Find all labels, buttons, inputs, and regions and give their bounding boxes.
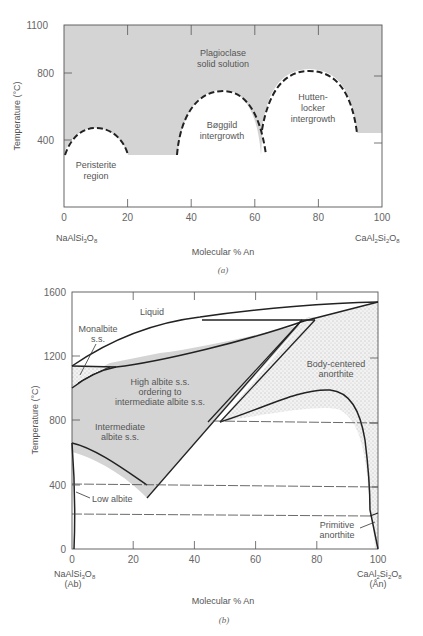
y-tick-1100: 1100 <box>26 20 48 31</box>
x-tick-20: 20 <box>122 212 134 223</box>
x-tick-80b: 80 <box>311 554 323 565</box>
y-axis-title-a: Temperature (°C) <box>12 81 22 150</box>
isotherm-390-dashed <box>72 484 378 487</box>
y-tick-1200: 1200 <box>44 351 67 362</box>
x-tick-40b: 40 <box>189 554 201 565</box>
label-ordering-to: ordering to <box>138 387 181 397</box>
x-tick-40: 40 <box>186 212 198 223</box>
x-tick-0b: 0 <box>69 554 75 565</box>
y-axis-title-b: Temperature (°C) <box>30 385 40 454</box>
label-hutten-intergrowth: intergrowth <box>291 114 336 124</box>
label-boggild: Bøggild <box>207 120 238 130</box>
caption-b: (b) <box>219 615 230 625</box>
x-tick-60b: 60 <box>250 554 262 565</box>
right-sub-b: (Ån) <box>369 579 386 589</box>
label-liquid: Liquid <box>140 307 164 317</box>
y-tick-800b: 800 <box>49 415 66 426</box>
y-tick-1600: 1600 <box>44 287 67 298</box>
label-monalbite: Monalbite <box>78 324 117 334</box>
x-tick-100: 100 <box>374 212 391 223</box>
label-intermediate-albite-ss: intermediate albite s.s. <box>115 397 205 407</box>
x-tick-60: 60 <box>249 212 261 223</box>
y-tick-0b: 0 <box>60 544 66 555</box>
phase-diagrams: 1100 800 400 0 20 40 60 80 100 NaAlSi3O8… <box>0 0 423 636</box>
label-high-albite: High albite s.s. <box>130 377 189 387</box>
chart-a: 1100 800 400 0 20 40 60 80 100 NaAlSi3O8… <box>12 20 400 275</box>
label-low-albite: Low albite <box>92 494 133 504</box>
label-primitive: Primitive <box>320 520 355 530</box>
label-body-centered: Body-centered <box>307 359 366 369</box>
x-axis-title-b: Molecular % An <box>192 596 255 606</box>
x-tick-100b: 100 <box>370 554 387 565</box>
x-axis-title-a: Molecular % An <box>192 247 255 257</box>
label-primitive-anorthite: anorthite <box>319 530 354 540</box>
y-tick-800: 800 <box>37 68 54 79</box>
label-boggild-intergrowth: intergrowth <box>200 131 245 141</box>
y-tick-400: 400 <box>37 135 54 146</box>
left-sub-b: (Ab) <box>64 579 81 589</box>
label-monalbite-ss: s.s. <box>91 334 105 344</box>
label-intermediate: Intermediate <box>95 422 145 432</box>
x-tick-80: 80 <box>313 212 325 223</box>
isotherm-210-dashed <box>72 514 370 516</box>
label-anorthite: anorthite <box>318 369 353 379</box>
label-region: region <box>83 171 108 181</box>
left-formula-a: NaAlSi3O8 <box>56 233 98 244</box>
label-albite-ss: albite s.s. <box>101 432 139 442</box>
right-formula-a: CaAl2Si2O8 <box>355 233 400 244</box>
label-solid-solution: solid solution <box>197 59 249 69</box>
chart-b: 1600 1200 800 400 0 0 20 40 60 80 100 Na… <box>30 287 402 625</box>
label-peristerite: Peristerite <box>76 160 117 170</box>
x-tick-20b: 20 <box>128 554 140 565</box>
x-tick-0: 0 <box>61 212 67 223</box>
label-locker: locker <box>301 103 325 113</box>
label-plagioclase: Plagioclase <box>200 48 246 58</box>
y-tick-400b: 400 <box>49 480 66 491</box>
low-albite-pointer <box>76 492 90 498</box>
label-hutten: Hutten- <box>298 92 328 102</box>
caption-a: (a) <box>218 265 229 275</box>
